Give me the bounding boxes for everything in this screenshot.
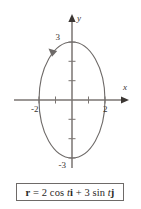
equation-plus: + [76,187,82,198]
equation-text: r = 2 cos ti + 3 sin tj [26,187,115,198]
plot-area: x y 3 -3 -2 2 [0,0,141,175]
x-axis-arrowhead-icon [121,96,129,103]
tick-label-y-3: 3 [56,32,61,42]
y-axis-arrowhead-icon [68,14,75,22]
equation-box: r = 2 cos ti + 3 sin tj [16,183,124,201]
equation-lhs-vector: r [26,187,31,198]
tick-label-y-minus-3: -3 [59,160,67,170]
equation-term1: 2 cos ti [42,187,73,198]
x-axis-label: x [122,82,127,92]
equation-equals: = [33,187,39,198]
parametric-ellipse-figure: x y 3 -3 -2 2 r = 2 cos ti + 3 sin tj [0,0,141,209]
tick-label-x-2: 2 [103,104,108,114]
tick-label-x-minus-2: -2 [31,104,39,114]
equation-term2: 3 sin tj [84,187,114,198]
y-axis-label: y [76,13,81,23]
